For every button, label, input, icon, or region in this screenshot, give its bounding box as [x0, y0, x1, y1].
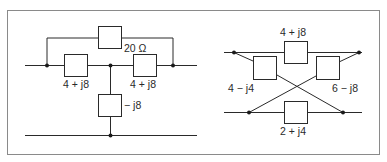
label-top-impedance: 4 + j8	[280, 26, 306, 38]
label-bridge-impedance: 20 Ω	[124, 42, 147, 54]
circuit-diagram-figure: 20 Ω 4 + j8 4 + j8 − j8 4 + j8 2 + j4	[0, 0, 387, 162]
cross-wire-right-in	[339, 53, 359, 63]
impedance-box-series-right	[134, 55, 157, 77]
node-junction	[109, 64, 113, 68]
impedance-box-shunt	[99, 95, 122, 117]
impedance-box-bridge-20-ohm	[99, 27, 122, 49]
impedance-box-top	[285, 42, 308, 64]
label-cross-left: 4 − j4	[228, 82, 254, 94]
label-series-right: 4 + j8	[130, 78, 156, 90]
impedance-box-series-left	[65, 55, 88, 77]
left-circuit-bridged-tee: 20 Ω 4 + j8 4 + j8 − j8	[25, 27, 197, 138]
label-bottom-impedance: 2 + j4	[280, 125, 306, 137]
impedance-box-bottom	[285, 102, 308, 124]
node-junction	[341, 111, 345, 115]
label-cross-right: 6 − j8	[332, 82, 358, 94]
right-circuit-lattice: 4 + j8 2 + j4 4 − j4 6 − j8	[224, 26, 362, 137]
node-junction	[247, 111, 251, 115]
node-junction	[171, 64, 175, 68]
impedance-box-cross-left	[254, 57, 277, 80]
node-junction	[232, 51, 236, 55]
node-junction	[357, 51, 361, 55]
label-shunt: − j8	[124, 99, 141, 111]
node-junction	[109, 134, 113, 138]
node-junction	[45, 64, 49, 68]
cross-wire-left-in	[234, 53, 253, 62]
label-series-left: 4 + j8	[63, 78, 89, 90]
impedance-box-cross-right	[317, 57, 340, 80]
